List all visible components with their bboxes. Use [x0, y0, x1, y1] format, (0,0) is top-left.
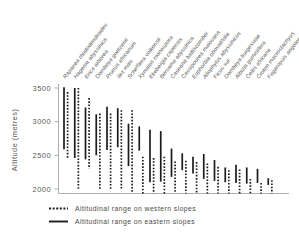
legend-label-eastern: Altitudinal range on eastern slopes [75, 218, 195, 226]
y-axis-title: Altitude (metres) [10, 109, 19, 172]
species-label-group: Rapanea rhododendroidesHagenia abyssinic… [62, 22, 299, 81]
y-tick-label: 2000 [33, 185, 51, 194]
western-range-bars [68, 88, 272, 194]
eastern-range-bars [64, 87, 268, 185]
chart-legend: Altitudinal range on western slopes Alti… [49, 205, 196, 226]
y-tick-label: 2500 [33, 151, 51, 160]
y-tick-group: 2000250030003500 [33, 84, 59, 194]
chart-canvas: Rapanea rhododendroidesHagenia abyssinic… [0, 0, 299, 236]
altitudinal-range-chart: Rapanea rhododendroidesHagenia abyssinic… [0, 0, 299, 236]
y-tick-label: 3500 [33, 84, 51, 93]
legend-label-western: Altitudinal range on western slopes [75, 205, 196, 213]
y-tick-label: 3000 [33, 117, 51, 126]
